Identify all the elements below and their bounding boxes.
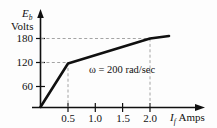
y-tick-label-180: 180: [6, 33, 33, 44]
x-axis-unit-label: Amps: [179, 111, 205, 123]
y-axis-symbol-letter: E: [22, 7, 29, 19]
x-axis-symbol-subscript: f: [174, 117, 176, 126]
x-axis-title: If Amps: [170, 112, 205, 126]
x-tick-label-1-5: 1.5: [109, 113, 137, 124]
omega-annotation: ω = 200 rad/sec: [89, 65, 155, 76]
y-tick-label-120: 120: [6, 57, 33, 68]
magnetization-curve-figure: Eb Volts 180 120 60 0.5 1.0 1.5 2.0 If A…: [0, 0, 217, 128]
y-tick-label-60: 60: [6, 81, 33, 92]
x-tick-label-1-0: 1.0: [81, 113, 109, 124]
y-axis-arrowhead: [37, 9, 44, 18]
x-axis-arrowhead: [195, 104, 205, 111]
x-tick-label-2-0: 2.0: [136, 113, 164, 124]
y-axis-unit-label: Volts: [11, 21, 33, 32]
x-tick-label-0-5: 0.5: [54, 113, 82, 124]
